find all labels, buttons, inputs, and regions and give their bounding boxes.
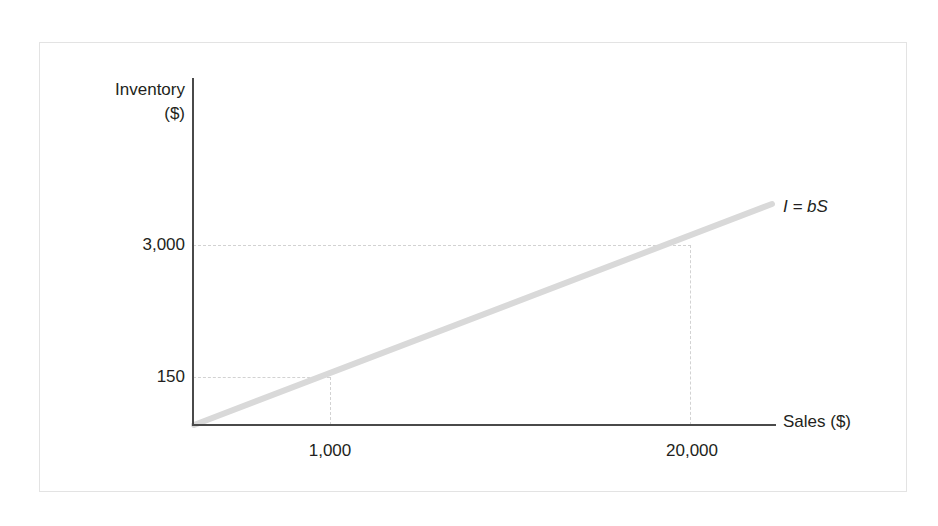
plot-area: Inventory ($) Sales ($) 3,000 150 1,000 … [0,0,938,526]
guideline-vertical-20000 [690,245,691,425]
equation-annotation: I = bS [783,197,828,217]
guideline-horizontal-150 [193,377,330,378]
x-axis-line [192,424,776,426]
x-tick-label-20000: 20,000 [637,441,747,461]
y-axis-line [192,78,194,426]
x-axis-title: Sales ($) [783,412,851,432]
series-line-I-equals-bS [194,204,772,425]
y-axis-title-line1: Inventory [35,80,185,100]
figure-root: Inventory ($) Sales ($) 3,000 150 1,000 … [0,0,938,526]
y-axis-title-line2: ($) [35,104,185,124]
trend-line-svg [0,0,938,526]
x-tick-label-1000: 1,000 [275,441,385,461]
guideline-vertical-1000 [330,377,331,425]
guideline-horizontal-3000 [193,245,691,246]
y-tick-label-150: 150 [85,367,185,387]
y-tick-label-3000: 3,000 [85,235,185,255]
